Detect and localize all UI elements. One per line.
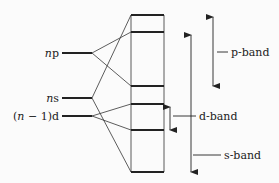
d-band-label: d-band: [199, 110, 237, 123]
atomic-levels: [62, 53, 92, 116]
band-diagram: np ns (n − 1)d p-band d-band s-band: [0, 0, 279, 183]
p-band-label: p-band: [231, 46, 269, 59]
correlation-lines: [92, 15, 131, 172]
band-box: [131, 15, 164, 172]
s-band-label: s-band: [224, 149, 261, 162]
ns-label: ns: [46, 92, 59, 105]
n-minus-1-d-label: (n − 1)d: [13, 110, 59, 123]
np-label: np: [45, 47, 59, 60]
